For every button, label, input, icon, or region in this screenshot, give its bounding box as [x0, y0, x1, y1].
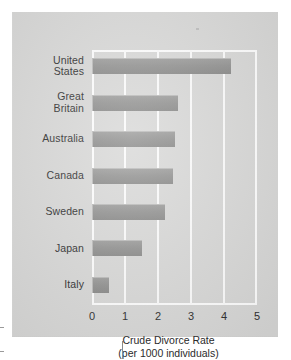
category-label-australia: Australia [26, 133, 84, 145]
category-label-line: Canada [26, 170, 84, 182]
bar-canada [92, 168, 173, 184]
category-label-line: Japan [26, 243, 84, 255]
x-tick-5: 5 [248, 310, 266, 322]
scan-mark-top-right [196, 28, 199, 30]
gridline-3 [190, 50, 192, 305]
category-label-canada: Canada [26, 170, 84, 182]
category-label-line: Australia [26, 133, 84, 145]
category-label-line: Italy [26, 279, 84, 291]
category-label-sweden: Sweden [26, 206, 84, 218]
gridline-4 [223, 50, 225, 305]
bar-united-states [92, 58, 231, 74]
bar-japan [92, 240, 142, 256]
x-axis-title-line2: (per 1000 individuals) [80, 347, 257, 360]
scan-mark-left-lower [0, 351, 4, 352]
scan-mark-bottom-center [122, 341, 123, 358]
category-label-great-britain: GreatBritain [26, 91, 84, 114]
x-axis-title: Crude Divorce Rate (per 1000 individuals… [80, 334, 257, 360]
bar-great-britain [92, 95, 178, 111]
category-label-italy: Italy [26, 279, 84, 291]
bar-australia [92, 131, 175, 147]
chart-plot-area: UnitedStatesGreatBritainAustraliaCanadaS… [80, 38, 257, 305]
x-tick-2: 2 [149, 310, 167, 322]
bar-sweden [92, 204, 165, 220]
category-label-line: States [26, 66, 84, 78]
x-axis-title-line1: Crude Divorce Rate [80, 334, 257, 347]
x-tick-0: 0 [83, 310, 101, 322]
category-label-japan: Japan [26, 243, 84, 255]
bar-italy [92, 277, 109, 293]
category-label-line: Great [26, 91, 84, 103]
scan-mark-left-upper [0, 327, 4, 328]
x-tick-4: 4 [215, 310, 233, 322]
x-tick-1: 1 [116, 310, 134, 322]
category-label-line: Britain [26, 103, 84, 115]
category-label-united-states: UnitedStates [26, 55, 84, 78]
x-tick-3: 3 [182, 310, 200, 322]
category-label-line: Sweden [26, 206, 84, 218]
scanned-figure-panel: UnitedStatesGreatBritainAustraliaCanadaS… [12, 12, 278, 337]
